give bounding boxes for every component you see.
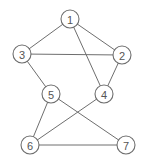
edge-5-7 — [51, 94, 126, 145]
nodes-group: 1234567 — [13, 10, 135, 154]
node-5: 5 — [42, 85, 60, 103]
node-label: 7 — [123, 140, 129, 152]
node-label: 1 — [67, 14, 73, 26]
node-6: 6 — [21, 136, 39, 154]
node-3: 3 — [13, 45, 31, 63]
node-label: 2 — [119, 50, 125, 62]
node-label: 6 — [27, 140, 33, 152]
graph-diagram: 1234567 — [0, 0, 146, 165]
node-label: 4 — [101, 89, 107, 101]
node-7: 7 — [117, 136, 135, 154]
node-label: 5 — [48, 89, 54, 101]
node-4: 4 — [95, 85, 113, 103]
node-label: 3 — [19, 49, 25, 61]
node-2: 2 — [113, 46, 131, 64]
edges-group — [22, 19, 126, 145]
node-1: 1 — [61, 10, 79, 28]
edge-4-6 — [30, 94, 104, 145]
edge-3-2 — [22, 54, 122, 55]
